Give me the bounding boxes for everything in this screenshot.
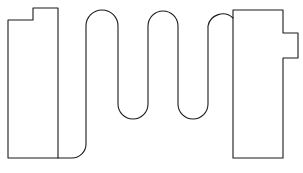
diagram-canvas [0,0,303,173]
left-block-hatch-fill [8,8,58,158]
serpentine-spring-outline [58,10,233,158]
left-block-outline [8,8,58,158]
left-block-group [8,8,58,158]
right-block-group [233,10,298,158]
right-block-hatch-fill [233,10,298,158]
diagram-root [0,0,303,173]
right-block-outline [233,10,298,158]
